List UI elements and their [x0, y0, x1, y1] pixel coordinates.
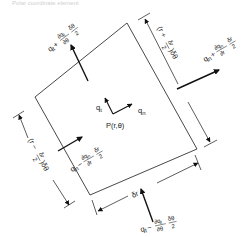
svg-text:qn+: qn+: [202, 49, 218, 64]
svg-text:qt+: qt+: [46, 39, 61, 54]
svg-text:2: 2: [98, 153, 104, 160]
qt-label: qt: [96, 103, 102, 113]
svg-text:)δθ: )δθ: [38, 159, 51, 173]
top-flux-arrow: [71, 45, 88, 81]
svg-text:δθ: δθ: [167, 215, 175, 222]
bottom-dimension-label: δr: [130, 189, 140, 200]
svg-text:(r −: (r −: [26, 137, 40, 152]
svg-text:δr: δr: [130, 189, 140, 200]
qn-arrow: [113, 104, 132, 114]
svg-text:∂θ: ∂θ: [62, 37, 71, 46]
left-dimension-label: (r − δr 2 )δθ: [23, 136, 52, 174]
right-flux-arrow: [177, 70, 219, 89]
top-flux-label: qt+ ∂qt ∂θ δθ 2: [44, 22, 82, 55]
svg-text:)δθ: )δθ: [167, 47, 180, 61]
svg-text:∂θ: ∂θ: [156, 225, 164, 232]
svg-text:δr: δr: [93, 146, 101, 154]
svg-text:qt−: qt−: [140, 223, 154, 235]
top-edge: [35, 23, 127, 97]
svg-text:δr: δr: [167, 39, 175, 47]
right-flux-label: qn+ ∂qn ∂r δr 2: [200, 35, 239, 66]
point-label: P(r,θ): [106, 121, 125, 130]
polar-element-diagram: qt qn P(r,θ) qt+ ∂qt ∂θ δθ 2 qn+ ∂qn ∂r …: [0, 0, 246, 237]
bottom-edge: [90, 149, 197, 195]
svg-text:δr: δr: [38, 151, 46, 159]
right-dimension-label: (r + δr 2 )δθ: [152, 24, 181, 62]
right-edge: [127, 23, 197, 149]
svg-text:∂r: ∂r: [86, 159, 93, 167]
bottom-flux-label: qt− ∂qt ∂θ δθ 2: [139, 215, 178, 236]
svg-text:2: 2: [74, 29, 81, 36]
svg-text:2: 2: [171, 223, 176, 230]
svg-text:∂r: ∂r: [219, 49, 226, 57]
svg-text:δr: δr: [226, 36, 234, 44]
svg-text:(r +: (r +: [155, 25, 169, 40]
left-flux-label: qn− ∂qn ∂r δr 2: [67, 145, 106, 176]
svg-text:2: 2: [231, 43, 237, 50]
left-edge: [35, 97, 90, 195]
bottom-flux-arrow: [141, 189, 153, 222]
qt-arrow: [105, 98, 113, 114]
right-dimension: [138, 13, 217, 147]
qn-label: qn: [138, 106, 146, 116]
